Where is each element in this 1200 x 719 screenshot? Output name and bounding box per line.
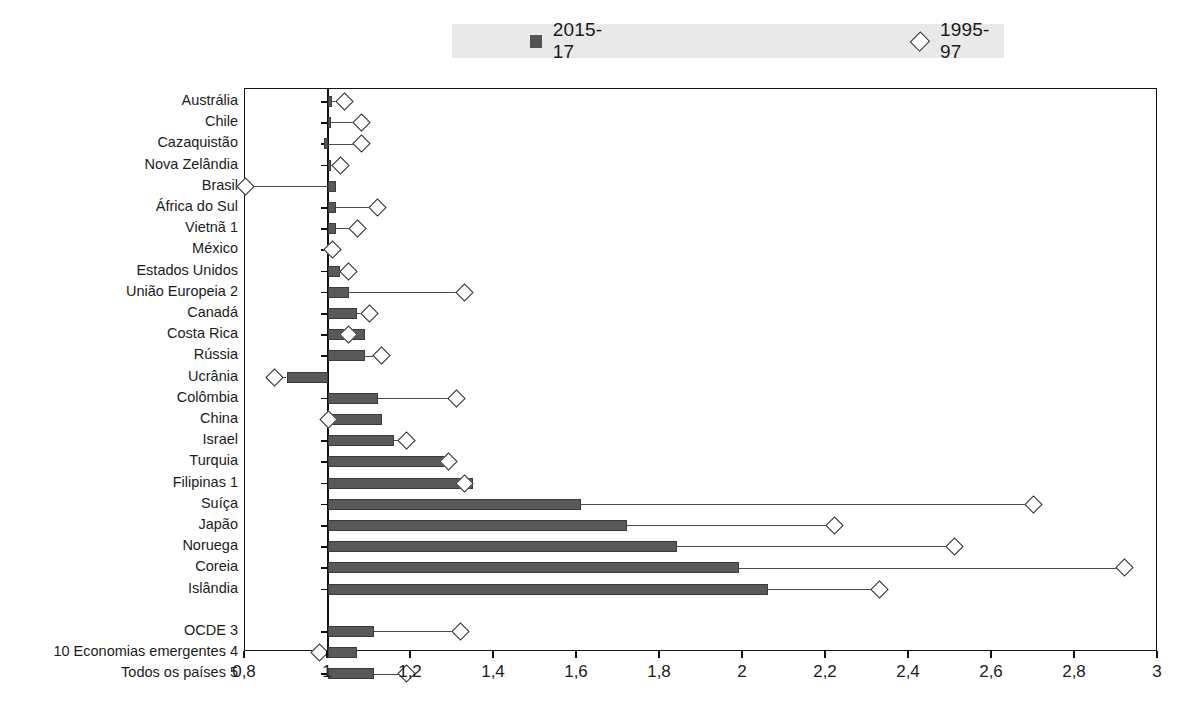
category-tick [321, 525, 327, 527]
bar-2015-17 [328, 223, 336, 234]
category-tick [321, 504, 327, 506]
category-label: OCDE 3 [0, 620, 238, 641]
x-axis-tick [741, 651, 743, 658]
diamond-1995-97 [398, 431, 416, 449]
diamond-1995-97 [369, 198, 387, 216]
chart-plot-area [244, 88, 1157, 651]
x-axis-tick-label: 1,6 [564, 662, 588, 682]
bar-2015-17 [324, 138, 328, 149]
chart-row [245, 409, 1156, 430]
chart-row [245, 197, 1156, 218]
category-label: Chile [0, 111, 238, 132]
category-tick [321, 101, 327, 103]
category-tick [321, 631, 327, 633]
legend-label-2015-17: 2015-17 [553, 19, 617, 63]
chart-row [245, 91, 1156, 112]
category-label: Filipinas 1 [0, 472, 238, 493]
diamond-1995-97 [340, 262, 358, 280]
chart-row [245, 282, 1156, 303]
diamond-1995-97 [1116, 559, 1134, 577]
bar-2015-17 [328, 435, 394, 446]
x-axis-tick [1156, 651, 1158, 658]
diamond-1995-97 [373, 347, 391, 365]
chart-row [245, 388, 1156, 409]
diamond-1995-97 [456, 283, 474, 301]
bar-2015-17 [328, 478, 473, 489]
chart-row [245, 155, 1156, 176]
x-axis-tick-label: 0,8 [232, 662, 256, 682]
category-label: Brasil [0, 175, 238, 196]
category-label: Costa Rica [0, 323, 238, 344]
diamond-1995-97 [825, 516, 843, 534]
chart-row [245, 345, 1156, 366]
category-tick [321, 355, 327, 357]
bar-2015-17 [328, 456, 444, 467]
chart-row [245, 176, 1156, 197]
chart-row [245, 579, 1156, 600]
x-axis-tick-label: 2,4 [896, 662, 920, 682]
x-axis-tick [1073, 651, 1075, 658]
x-axis-tick-label: 2,6 [979, 662, 1003, 682]
diamond-1995-97 [352, 113, 370, 131]
chart-row [245, 430, 1156, 451]
x-axis-tick [658, 651, 660, 658]
bar-2015-17 [328, 117, 331, 128]
diamond-1995-97 [1024, 495, 1042, 513]
legend-item-2015-17: 2015-17 [530, 19, 617, 63]
chart-row [245, 515, 1156, 536]
category-label: União Europeia 2 [0, 281, 238, 302]
category-label: Vietnã 1 [0, 217, 238, 238]
category-label: México [0, 238, 238, 259]
category-label: Nova Zelândia [0, 154, 238, 175]
category-tick [321, 334, 327, 336]
diamond-1995-97 [360, 304, 378, 322]
connector-line [627, 525, 835, 526]
diamond-1995-97 [331, 156, 349, 174]
category-label: Estados Unidos [0, 260, 238, 281]
category-tick [321, 207, 327, 209]
category-label: África do Sul [0, 196, 238, 217]
category-label: Islândia [0, 578, 238, 599]
bar-2015-17 [328, 393, 378, 404]
connector-line [768, 589, 880, 590]
x-axis-tick-label: 1,8 [647, 662, 671, 682]
connector-line [581, 504, 1033, 505]
diamond-1995-97 [236, 177, 254, 195]
diamond-1995-97 [265, 368, 283, 386]
chart-row [245, 133, 1156, 154]
bar-2015-17 [328, 584, 768, 595]
chart-row [245, 261, 1156, 282]
connector-line [378, 398, 457, 399]
bar-2015-17 [328, 308, 357, 319]
chart-row [245, 324, 1156, 345]
x-axis-tick [907, 651, 909, 658]
diamond-1995-97 [871, 580, 889, 598]
category-tick [321, 292, 327, 294]
category-label: Japão [0, 514, 238, 535]
category-tick [321, 546, 327, 548]
category-tick [321, 165, 327, 167]
bar-2015-17 [328, 181, 336, 192]
legend-item-1995-97: 1995-97 [913, 19, 1004, 63]
x-axis-tick [575, 651, 577, 658]
bar-2015-17 [328, 202, 336, 213]
bar-2015-17 [328, 626, 374, 637]
diamond-1995-97 [452, 622, 470, 640]
bar-2015-17 [328, 499, 581, 510]
category-tick [321, 567, 327, 569]
category-tick [321, 313, 327, 315]
bar-2015-17 [328, 350, 365, 361]
category-tick [321, 440, 327, 442]
value-axis: 0,811,21,41,61,822,22,42,62,83 [244, 651, 1157, 691]
x-axis-tick-label: 1,4 [481, 662, 505, 682]
category-label: Noruega [0, 535, 238, 556]
chart-row [245, 303, 1156, 324]
category-label: 10 Economias emergentes 4 [0, 641, 238, 662]
open-diamond-icon [910, 31, 930, 51]
connector-line [245, 186, 336, 187]
category-label: Ucrânia [0, 366, 238, 387]
bar-2015-17 [328, 520, 627, 531]
category-label: Todos os países 5 [0, 662, 238, 683]
category-label: Rússia [0, 344, 238, 365]
x-axis-tick-label: 1 [322, 662, 331, 682]
